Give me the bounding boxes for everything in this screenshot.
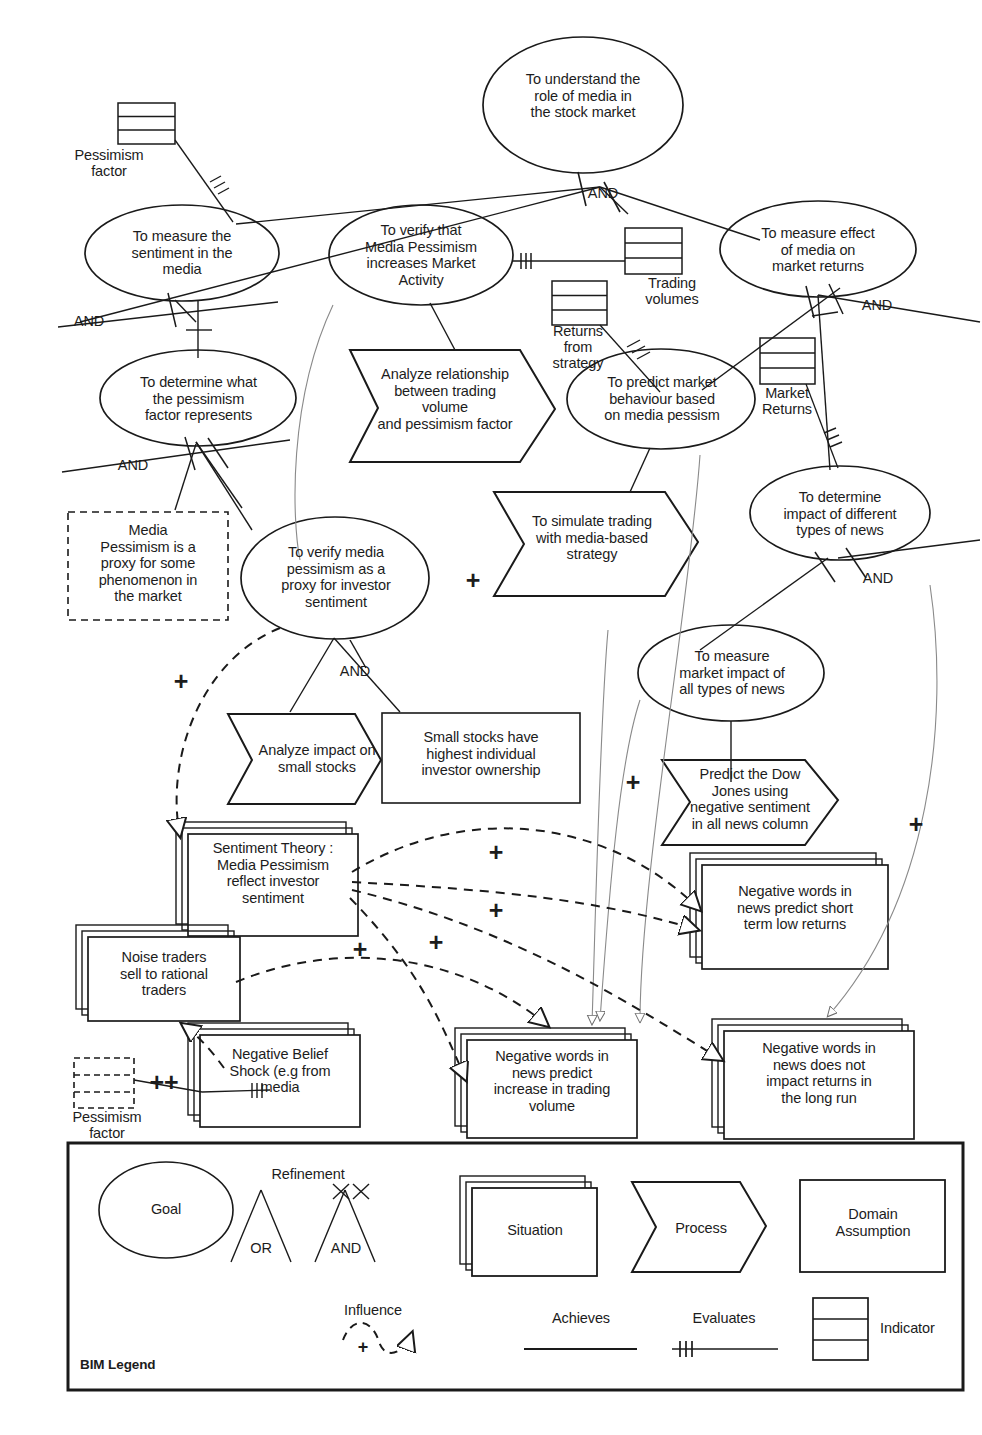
refinement-and-news-types: AND bbox=[853, 570, 903, 587]
goal-understand-role-of-media[interactable]: To understand the role of media in the s… bbox=[483, 71, 683, 121]
legend-influence-label: Influence bbox=[318, 1302, 428, 1319]
goal-verify-media-pessimism-proxy-sentiment[interactable]: To verify media pessimism as a proxy for… bbox=[244, 544, 428, 610]
situation-negwords-increase-trading-volume[interactable]: Negative words in news predict increase … bbox=[471, 1048, 633, 1114]
legend-shapes-layer bbox=[0, 0, 982, 1435]
process-analyze-impact-small-stocks[interactable]: Analyze impact on small stocks bbox=[236, 742, 398, 775]
legend-goal-label: Goal bbox=[126, 1201, 206, 1218]
legend-achieves-label: Achieves bbox=[526, 1310, 636, 1327]
legend-or-label: OR bbox=[241, 1240, 281, 1257]
bim-diagram-canvas: To understand the role of media in the s… bbox=[0, 0, 982, 1435]
legend-evaluates-label: Evaluates bbox=[668, 1310, 780, 1327]
refinement-and-root: AND bbox=[578, 185, 628, 202]
legend-situation-label: Situation bbox=[487, 1222, 583, 1239]
indicator-returns-from-strategy[interactable]: Returns from strategy bbox=[531, 324, 625, 372]
legend-and-label: AND bbox=[324, 1240, 368, 1257]
indicator-trading-volumes[interactable]: Trading volumes bbox=[627, 276, 717, 308]
influence-plus-3: + bbox=[621, 770, 645, 795]
situation-noise-traders-sell-rational[interactable]: Noise traders sell to rational traders bbox=[92, 949, 236, 999]
legend-refinement-label: Refinement bbox=[248, 1166, 368, 1183]
process-predict-dow-jones-negative-sentiment[interactable]: Predict the Dow Jones using negative sen… bbox=[668, 766, 832, 832]
indicator-pessimism-factor-bottom[interactable]: Pessimism factor bbox=[52, 1110, 162, 1142]
influence-plus-4: + bbox=[904, 812, 928, 837]
situation-small-stocks-investor-ownership[interactable]: Small stocks have highest individual inv… bbox=[390, 729, 572, 779]
indicator-market-returns[interactable]: Market Returns bbox=[743, 386, 831, 418]
situation-negwords-short-term-low-returns[interactable]: Negative words in news predict short ter… bbox=[706, 883, 884, 933]
influence-plus-2: + bbox=[169, 669, 193, 694]
legend-influence-plus-sign: + bbox=[352, 1338, 374, 1356]
legend-process-label: Process bbox=[655, 1220, 747, 1237]
goal-verify-media-pessimism-increases-activity[interactable]: To verify that Media Pessimism increases… bbox=[331, 222, 511, 288]
situation-negwords-no-impact-long-run[interactable]: Negative words in news does not impact r… bbox=[728, 1040, 910, 1106]
diagram-shapes-layer bbox=[0, 0, 982, 1435]
influence-plus-1: + bbox=[461, 568, 485, 593]
domain-assumption-media-pessimism-proxy[interactable]: Media Pessimism is a proxy for some phen… bbox=[72, 522, 224, 605]
influence-plus-7: + bbox=[424, 930, 448, 955]
legend-indicator-label: Indicator bbox=[880, 1320, 972, 1337]
influence-plus-6: + bbox=[484, 898, 508, 923]
legend-domain-assumption-label: Domain Assumption bbox=[812, 1206, 934, 1239]
refinement-and-sentiment: AND bbox=[64, 313, 114, 330]
refinement-and-proxy-sentiment: AND bbox=[330, 663, 380, 680]
process-analyze-relationship-volume-pessimism[interactable]: Analyze relationship between trading vol… bbox=[351, 366, 539, 432]
influence-plus-8: + bbox=[348, 937, 372, 962]
goal-measure-sentiment-in-media[interactable]: To measure the sentiment in the media bbox=[92, 228, 272, 278]
influence-plus-5: + bbox=[484, 840, 508, 865]
goal-measure-market-impact-all-news[interactable]: To measure market impact of all types of… bbox=[641, 648, 823, 698]
refinement-and-market-returns: AND bbox=[852, 297, 902, 314]
indicator-pessimism-factor-top[interactable]: Pessimism factor bbox=[54, 148, 164, 180]
situation-sentiment-theory[interactable]: Sentiment Theory : Media Pessimism refle… bbox=[192, 840, 354, 906]
goal-determine-impact-news-types[interactable]: To determine impact of different types o… bbox=[751, 489, 929, 539]
refinement-and-pessimism-factor: AND bbox=[108, 457, 158, 474]
process-simulate-trading-media-strategy[interactable]: To simulate trading with media-based str… bbox=[500, 513, 684, 563]
goal-predict-market-behaviour[interactable]: To predict market behaviour based on med… bbox=[570, 374, 754, 424]
influence-plus-double: ++ bbox=[144, 1070, 184, 1095]
legend-title: BIM Legend bbox=[80, 1357, 220, 1372]
situation-negative-belief-shock[interactable]: Negative Belief Shock (e.g from media bbox=[204, 1046, 356, 1096]
goal-measure-effect-media-market-returns[interactable]: To measure effect of media on market ret… bbox=[726, 225, 910, 275]
goal-determine-pessimism-factor-meaning[interactable]: To determine what the pessimism factor r… bbox=[106, 374, 291, 424]
